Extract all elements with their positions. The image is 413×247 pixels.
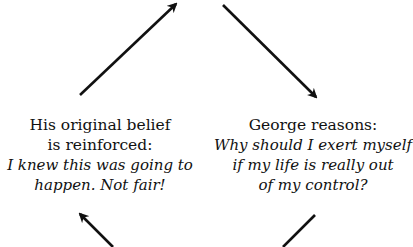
node-belief-reinforced: His original belief is reinforced: I kne…	[0, 115, 200, 195]
node-george-reasons: George reasons: Why should I exert mysel…	[213, 115, 413, 195]
node-quote-line: if my life is really out	[213, 155, 413, 175]
node-quote-line: of my control?	[213, 175, 413, 195]
node-quote-line: Why should I exert myself	[213, 135, 413, 155]
arrow-top-right-icon	[223, 5, 316, 97]
line-bottom-right-icon	[283, 215, 315, 247]
node-quote-line: happen. Not fair!	[0, 175, 200, 195]
cycle-diagram: His original belief is reinforced: I kne…	[0, 0, 413, 247]
node-quote-line: I knew this was going to	[0, 155, 200, 175]
node-title-line: His original belief	[0, 115, 200, 135]
arrow-top-left-icon	[80, 4, 176, 95]
arrow-bottom-left-icon	[80, 214, 113, 247]
node-title-line: is reinforced:	[0, 135, 200, 155]
node-title-line: George reasons:	[213, 115, 413, 135]
